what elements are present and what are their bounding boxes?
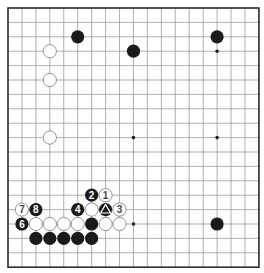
move-number: 2 bbox=[89, 190, 95, 201]
move-number: 3 bbox=[117, 204, 123, 215]
black-stone bbox=[71, 232, 84, 245]
white-stone: 3 bbox=[113, 203, 126, 216]
move-number: 7 bbox=[19, 204, 25, 215]
black-stone: 2 bbox=[85, 189, 98, 202]
black-stone bbox=[211, 30, 224, 43]
black-stone bbox=[99, 203, 112, 216]
black-stone bbox=[211, 217, 224, 230]
white-stone: 1 bbox=[99, 189, 112, 202]
black-stone bbox=[85, 217, 98, 230]
star-point bbox=[132, 136, 136, 140]
white-stone bbox=[43, 131, 56, 144]
white-stone: 7 bbox=[15, 203, 28, 216]
star-point bbox=[215, 136, 219, 140]
white-stone bbox=[43, 73, 56, 86]
black-stone bbox=[43, 232, 56, 245]
white-stone bbox=[85, 203, 98, 216]
white-stone bbox=[43, 45, 56, 58]
go-board: 2178436 bbox=[0, 0, 264, 273]
star-point bbox=[215, 49, 219, 53]
move-number: 8 bbox=[33, 204, 39, 215]
white-stone bbox=[29, 217, 42, 230]
move-number: 6 bbox=[19, 219, 25, 230]
black-stone bbox=[29, 232, 42, 245]
white-stone bbox=[113, 217, 126, 230]
black-stone bbox=[85, 232, 98, 245]
white-stone bbox=[71, 217, 84, 230]
white-stone bbox=[43, 217, 56, 230]
white-stone bbox=[99, 217, 112, 230]
star-point bbox=[132, 222, 136, 226]
black-stone bbox=[127, 45, 140, 58]
black-stone: 4 bbox=[71, 203, 84, 216]
white-stone bbox=[57, 217, 70, 230]
black-stone: 8 bbox=[29, 203, 42, 216]
move-number: 4 bbox=[75, 204, 81, 215]
move-number: 1 bbox=[103, 190, 109, 201]
black-stone: 6 bbox=[15, 217, 28, 230]
black-stone bbox=[57, 232, 70, 245]
black-stone bbox=[71, 30, 84, 43]
